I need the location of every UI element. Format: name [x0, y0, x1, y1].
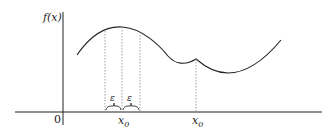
origin-label: 0	[54, 114, 61, 125]
function-curve	[77, 27, 281, 73]
x0-label: x0	[118, 115, 129, 129]
y-axis-label: f(x)	[43, 12, 62, 23]
dotted-guides	[105, 27, 196, 112]
epsilon-brace-right	[123, 103, 139, 110]
epsilon-left-label: ε	[110, 94, 115, 103]
function-extrema-diagram: f(x) 0 ε ε x0 x0	[0, 0, 330, 134]
x0-prime-label: x0	[192, 115, 203, 129]
epsilon-brace-left	[106, 103, 121, 110]
x0-sub: 0	[124, 120, 129, 129]
x0p-sub: 0	[198, 120, 203, 129]
epsilon-right-label: ε	[127, 94, 132, 103]
